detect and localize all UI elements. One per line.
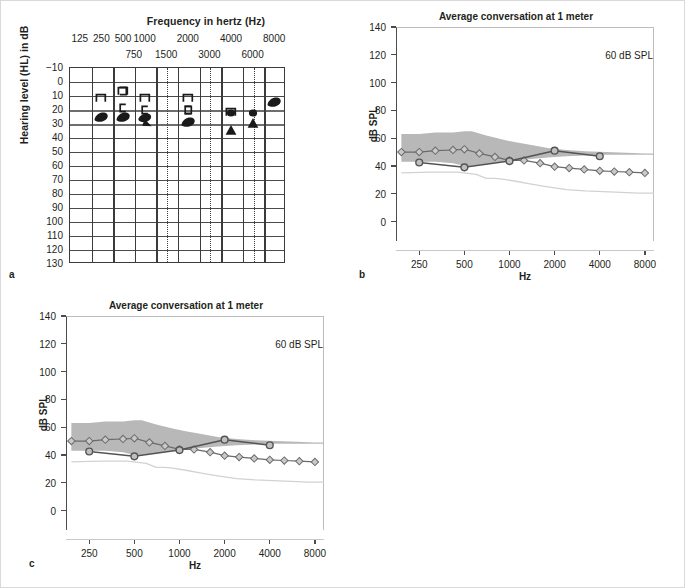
audiogram-hline — [70, 222, 284, 223]
aided-marker-250 — [416, 159, 423, 166]
audiogram-symbol-masked-bone-left-500b — [119, 86, 128, 95]
audiogram-symbol-masked-bone-right-1000 — [139, 93, 150, 102]
unaided-marker-5000 — [281, 457, 288, 464]
audiogram-hline — [70, 166, 284, 167]
y-label-80: 80 — [360, 105, 386, 116]
figure-page: Frequency in hertz (Hz) 1252505001000200… — [0, 0, 685, 588]
unaided-marker-2500 — [565, 164, 572, 171]
aided-marker-500 — [461, 164, 468, 171]
audiogram-octave-label-2000: 2000 — [177, 33, 199, 44]
hearing-threshold-line — [71, 461, 324, 482]
y-label-20: 20 — [30, 477, 56, 488]
audiogram-octave-label-4000: 4000 — [220, 33, 242, 44]
unaided-marker-5000 — [611, 168, 618, 175]
audiogram-hline — [70, 194, 284, 195]
audiogram-vline-dotted-6000 — [254, 68, 255, 262]
audiogram-hline — [70, 250, 284, 251]
unaided-marker-1600 — [206, 449, 213, 456]
panel-letter-b: b — [359, 269, 365, 280]
aided-marker-2000 — [551, 147, 558, 154]
y-tick-120 — [61, 343, 66, 344]
audiogram-hline — [70, 180, 284, 181]
x-label-4000: 4000 — [247, 548, 293, 559]
audiogram-symbol-air-left-250 — [93, 112, 109, 123]
audiogram-symbol-air-left-500 — [115, 112, 131, 123]
audiogram-vline — [113, 68, 114, 262]
y-tick-0 — [391, 221, 396, 222]
audiogram-y-label-100: 100 — [35, 216, 63, 227]
y-tick-60 — [61, 427, 66, 428]
x-axis-baseline — [66, 539, 324, 540]
audiogram-octave-label-1000: 1000 — [133, 33, 155, 44]
y-tick-60 — [391, 138, 396, 139]
unaided-marker-3150 — [581, 166, 588, 173]
y-tick-0 — [61, 510, 66, 511]
y-label-140: 140 — [360, 22, 386, 33]
audiogram-y-label-40: 40 — [35, 132, 63, 143]
aided-marker-2000 — [221, 436, 228, 443]
aided-marker-1000 — [176, 447, 183, 454]
audiogram-y-axis-title: Hearing level (HL) in dB — [18, 10, 30, 160]
audiogram-octave-label-500: 500 — [115, 33, 132, 44]
audiogram-y-label--10: −10 — [35, 62, 63, 73]
unaided-marker-2500 — [235, 453, 242, 460]
audiogram-vline — [200, 68, 201, 262]
y-tick-80 — [61, 399, 66, 400]
audiogram-symbol-masked-bone-right-2000b — [183, 106, 192, 115]
y-tick-100 — [391, 82, 396, 83]
audiogram-symbol-masked-bone-right-250 — [96, 93, 107, 102]
unaided-marker-8000 — [641, 169, 648, 176]
audiogram-octave-label-250: 250 — [93, 33, 110, 44]
x-label-8000: 8000 — [292, 548, 338, 559]
audiogram-hline — [70, 82, 284, 83]
chart-c-level-note: 60 dB SPL — [275, 339, 323, 350]
unaided-marker-1600 — [536, 160, 543, 167]
panel-letter-a: a — [9, 269, 15, 280]
x-label-500: 500 — [441, 259, 487, 270]
unaided-marker-3150 — [251, 455, 258, 462]
unaided-marker-4000 — [266, 456, 273, 463]
chart-b-y-axis-title: dB SPL — [368, 90, 379, 160]
y-label-60: 60 — [30, 422, 56, 433]
audiogram-symbol-air-left-4000b — [225, 125, 237, 136]
audiogram-vline-dotted-750 — [135, 68, 136, 262]
x-label-8000: 8000 — [622, 259, 668, 270]
y-label-120: 120 — [360, 49, 386, 60]
audiogram-interoctave-label-750: 750 — [125, 49, 142, 60]
y-tick-20 — [61, 482, 66, 483]
audiogram-octave-label-8000: 8000 — [263, 33, 285, 44]
x-label-2000: 2000 — [532, 259, 578, 270]
panel-c-spl-chart: Average conversation at 1 meter 60 dB SP… — [21, 294, 351, 584]
y-tick-20 — [391, 193, 396, 194]
audiogram-y-label-60: 60 — [35, 160, 63, 171]
audiogram-y-label-0: 0 — [35, 76, 63, 87]
y-label-80: 80 — [30, 394, 56, 405]
y-tick-120 — [391, 54, 396, 55]
audiogram-symbol-air-left-6000 — [248, 109, 257, 118]
audiogram-symbol-air-left-2000 — [180, 116, 196, 127]
audiogram-octave-label-125: 125 — [71, 33, 88, 44]
audiogram-symbol-air-left-4000 — [227, 109, 236, 118]
aided-marker-4000 — [596, 153, 603, 160]
unaided-marker-2000 — [551, 163, 558, 170]
audiogram-x-axis-title: Frequency in hertz (Hz) — [61, 15, 351, 27]
audiogram-vline — [178, 68, 179, 262]
audiogram-y-label-130: 130 — [35, 258, 63, 269]
unaided-marker-2000 — [221, 452, 228, 459]
unaided-marker-8000 — [311, 458, 318, 465]
aided-marker-4000 — [266, 442, 273, 449]
chart-c-y-axis-title: dB SPL — [38, 379, 49, 449]
y-tick-80 — [391, 110, 396, 111]
y-label-60: 60 — [360, 133, 386, 144]
hearing-threshold-line — [401, 172, 654, 193]
audiogram-y-label-30: 30 — [35, 118, 63, 129]
panel-letter-c: c — [29, 558, 35, 569]
audiogram-vline — [92, 68, 93, 262]
chart-c-x-axis-title: Hz — [189, 560, 201, 571]
x-label-1000: 1000 — [486, 259, 532, 270]
y-label-40: 40 — [30, 449, 56, 460]
aided-marker-1000 — [506, 158, 513, 165]
y-label-40: 40 — [360, 160, 386, 171]
chart-b-x-axis-title: Hz — [519, 271, 531, 282]
audiogram-symbol-masked-bone-left-500 — [119, 103, 127, 112]
